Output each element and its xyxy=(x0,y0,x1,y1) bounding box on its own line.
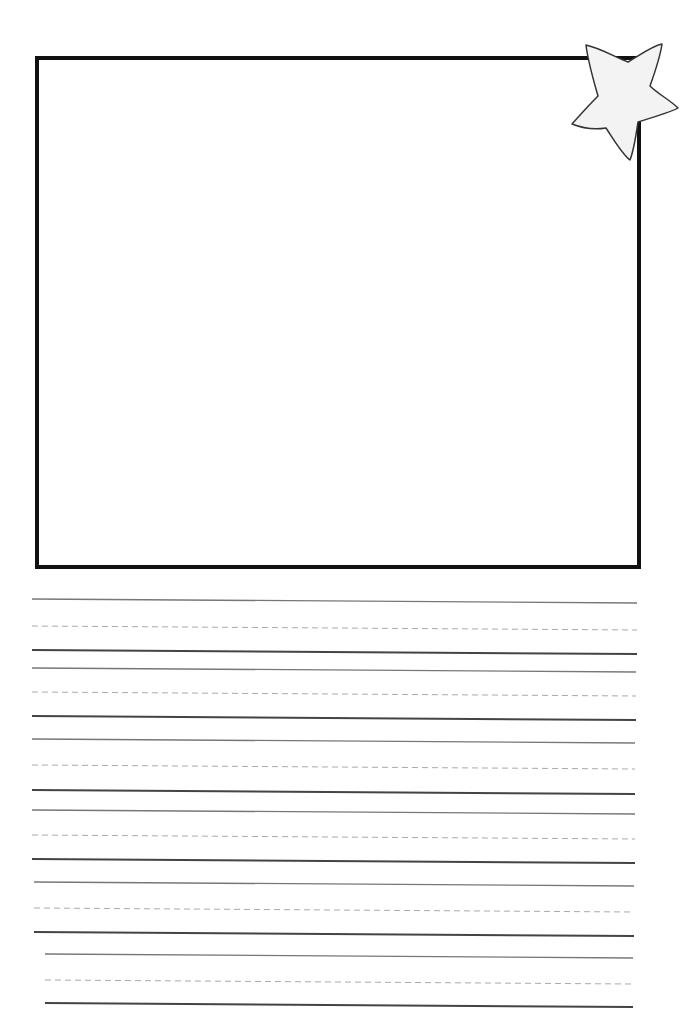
midline-5 xyxy=(34,908,634,912)
top-line-3 xyxy=(32,739,635,743)
midline-6 xyxy=(45,980,633,984)
top-line-6 xyxy=(45,954,633,958)
writing-lines[interactable] xyxy=(32,599,637,1007)
midline-2 xyxy=(32,692,636,696)
midline-3 xyxy=(32,765,635,769)
midline-1 xyxy=(32,626,637,630)
baseline-4 xyxy=(32,859,635,863)
baseline-2 xyxy=(32,716,636,720)
top-line-1 xyxy=(32,599,637,603)
baseline-1 xyxy=(32,650,637,654)
baseline-3 xyxy=(32,790,635,794)
midline-4 xyxy=(32,835,635,839)
worksheet-canvas xyxy=(0,0,692,1036)
top-line-5 xyxy=(34,882,634,886)
baseline-5 xyxy=(34,932,634,936)
baseline-6 xyxy=(45,1003,633,1007)
worksheet-page xyxy=(0,0,692,1036)
top-line-2 xyxy=(32,668,636,672)
drawing-box[interactable] xyxy=(37,58,639,567)
top-line-4 xyxy=(32,810,635,814)
